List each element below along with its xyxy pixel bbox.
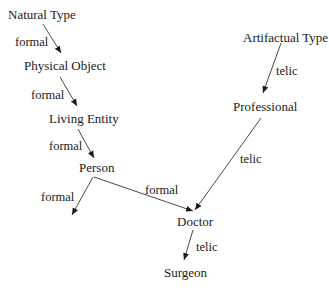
edge-label-telic-3: telic bbox=[196, 240, 218, 254]
edge-label-telic-1: telic bbox=[276, 64, 298, 78]
edge-label-formal-5: formal bbox=[145, 183, 178, 197]
node-doctor: Doctor bbox=[177, 215, 213, 229]
arrow-doctor-to-surgeon bbox=[184, 230, 193, 260]
edge-label-formal-4: formal bbox=[41, 190, 74, 204]
node-person: Person bbox=[79, 161, 114, 175]
node-professional: Professional bbox=[233, 100, 297, 114]
node-living-entity: Living Entity bbox=[49, 112, 119, 126]
node-surgeon: Surgeon bbox=[164, 266, 207, 280]
edge-label-formal-2: formal bbox=[31, 88, 64, 102]
node-natural-type: Natural Type bbox=[8, 8, 76, 22]
edge-label-formal-1: formal bbox=[15, 35, 48, 49]
arrow-person-to-unlabeled bbox=[72, 177, 93, 215]
edge-label-formal-3: formal bbox=[49, 139, 82, 153]
node-physical-object: Physical Object bbox=[24, 59, 106, 73]
edge-label-telic-2: telic bbox=[240, 152, 262, 166]
node-artifactual-type: Artifactual Type bbox=[243, 31, 328, 45]
